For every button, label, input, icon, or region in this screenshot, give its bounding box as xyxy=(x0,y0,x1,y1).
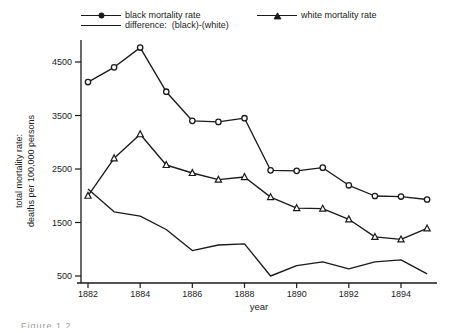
data-point-circle-black-mortality-rate xyxy=(164,89,169,94)
data-point-circle-black-mortality-rate xyxy=(398,194,403,199)
data-point-circle-black-mortality-rate xyxy=(216,119,221,124)
data-point-circle-black-mortality-rate xyxy=(268,168,273,173)
data-point-circle-black-mortality-rate xyxy=(111,65,116,70)
x-tick-label: 1882 xyxy=(78,289,98,299)
data-point-triangle-white-mortality-rate xyxy=(320,205,326,211)
data-point-triangle-white-mortality-rate xyxy=(424,225,430,231)
series-line-difference-black-white xyxy=(88,189,427,276)
y-tick-label: 4500 xyxy=(52,57,72,67)
data-point-triangle-white-mortality-rate xyxy=(241,174,247,180)
data-point-triangle-white-mortality-rate xyxy=(215,176,221,182)
x-axis-label: year xyxy=(199,301,319,312)
x-tick-label: 1892 xyxy=(339,289,359,299)
chart-plot-area: 5001500250035004500188218841886188818901… xyxy=(0,0,449,333)
data-point-circle-black-mortality-rate xyxy=(294,168,299,173)
data-point-circle-black-mortality-rate xyxy=(372,193,377,198)
series-line-white-mortality-rate xyxy=(88,134,427,239)
data-point-triangle-white-mortality-rate xyxy=(398,236,404,242)
mortality-rate-chart-figure: black mortality rate white mortality rat… xyxy=(0,0,449,333)
data-point-circle-black-mortality-rate xyxy=(424,197,429,202)
y-tick-label: 2500 xyxy=(52,164,72,174)
data-point-circle-black-mortality-rate xyxy=(242,115,247,120)
x-tick-label: 1888 xyxy=(234,289,254,299)
data-point-circle-black-mortality-rate xyxy=(320,165,325,170)
series-line-black-mortality-rate xyxy=(88,48,427,200)
data-point-circle-black-mortality-rate xyxy=(190,118,195,123)
data-point-triangle-white-mortality-rate xyxy=(372,234,378,240)
data-point-triangle-white-mortality-rate xyxy=(294,205,300,211)
data-point-triangle-white-mortality-rate xyxy=(189,170,195,176)
data-point-circle-black-mortality-rate xyxy=(85,79,90,84)
x-tick-label: 1890 xyxy=(287,289,307,299)
x-tick-label: 1884 xyxy=(130,289,150,299)
y-tick-label: 500 xyxy=(57,271,72,281)
x-tick-label: 1894 xyxy=(391,289,411,299)
data-point-circle-black-mortality-rate xyxy=(346,183,351,188)
data-point-triangle-white-mortality-rate xyxy=(346,216,352,222)
x-tick-label: 1886 xyxy=(182,289,202,299)
data-point-triangle-white-mortality-rate xyxy=(137,131,143,137)
partial-figure-caption: Figure 1.2 xyxy=(21,322,72,328)
y-tick-label: 1500 xyxy=(52,218,72,228)
y-tick-label: 3500 xyxy=(52,111,72,121)
data-point-circle-black-mortality-rate xyxy=(137,45,142,50)
